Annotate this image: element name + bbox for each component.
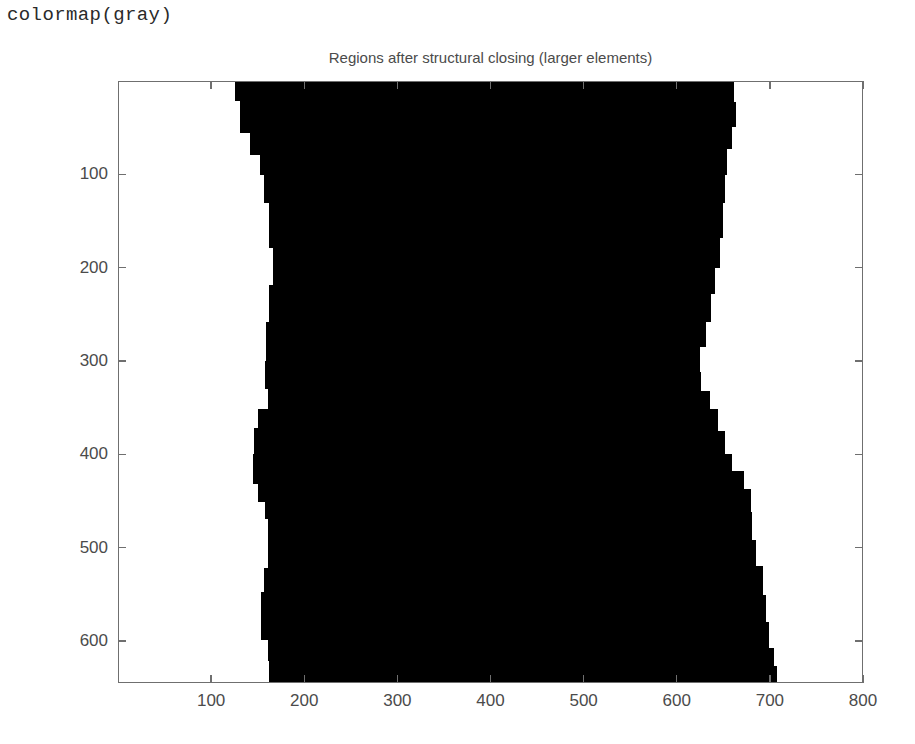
y-tick-600 xyxy=(118,640,126,641)
y-ticklabel-500: 500 xyxy=(60,538,108,558)
plot-axes-frame xyxy=(118,81,863,683)
x-tick-800 xyxy=(862,675,863,683)
x-tick-top-300 xyxy=(397,81,398,89)
x-tick-300 xyxy=(397,675,398,683)
x-ticklabel-300: 300 xyxy=(383,691,411,711)
y-tick-right-200 xyxy=(855,267,863,268)
x-tick-top-500 xyxy=(583,81,584,89)
y-ticklabel-100: 100 xyxy=(60,164,108,184)
x-tick-600 xyxy=(676,675,677,683)
x-ticklabel-700: 700 xyxy=(756,691,784,711)
y-tick-right-100 xyxy=(855,174,863,175)
x-ticklabel-400: 400 xyxy=(476,691,504,711)
x-tick-top-600 xyxy=(676,81,677,89)
y-ticklabel-200: 200 xyxy=(60,258,108,278)
x-ticklabel-600: 600 xyxy=(663,691,691,711)
x-tick-top-800 xyxy=(862,81,863,89)
x-tick-top-100 xyxy=(210,81,211,89)
y-tick-right-400 xyxy=(855,454,863,455)
y-ticklabel-400: 400 xyxy=(60,444,108,464)
figure-panel: Regions after structural closing (larger… xyxy=(0,0,915,744)
y-tick-400 xyxy=(118,454,126,455)
x-tick-400 xyxy=(490,675,491,683)
x-tick-200 xyxy=(304,675,305,683)
x-ticklabel-500: 500 xyxy=(569,691,597,711)
figure-title: Regions after structural closing (larger… xyxy=(118,49,863,66)
x-tick-top-400 xyxy=(490,81,491,89)
x-tick-700 xyxy=(769,675,770,683)
y-tick-right-600 xyxy=(855,640,863,641)
y-tick-500 xyxy=(118,547,126,548)
y-ticklabel-300: 300 xyxy=(60,351,108,371)
y-tick-200 xyxy=(118,267,126,268)
y-tick-100 xyxy=(118,174,126,175)
x-tick-100 xyxy=(210,675,211,683)
binary-mask-image xyxy=(119,82,862,682)
x-tick-top-200 xyxy=(304,81,305,89)
x-ticklabel-800: 800 xyxy=(849,691,877,711)
x-ticklabel-100: 100 xyxy=(197,691,225,711)
y-tick-300 xyxy=(118,360,126,361)
x-ticklabel-200: 200 xyxy=(290,691,318,711)
y-tick-right-500 xyxy=(855,547,863,548)
x-tick-500 xyxy=(583,675,584,683)
x-tick-top-700 xyxy=(769,81,770,89)
y-ticklabel-600: 600 xyxy=(60,631,108,651)
y-tick-right-300 xyxy=(855,360,863,361)
